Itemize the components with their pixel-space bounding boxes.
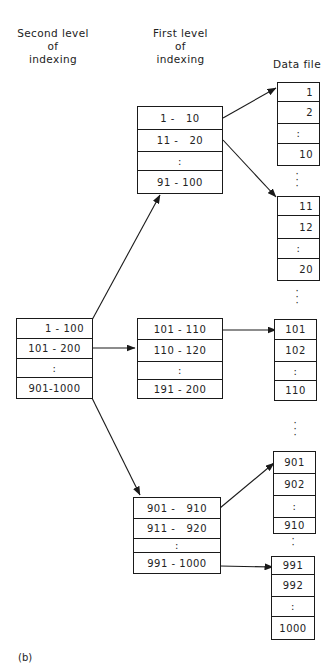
first-level-index-block-3: 901 - 910 911 - 920 : 991 - 1000 [133, 497, 221, 574]
arrow-2nd-to-1st-bottom [92, 398, 140, 495]
data-record-ellipsis: : [274, 496, 315, 518]
data-record: 991 [272, 557, 314, 575]
data-record: 110 [275, 381, 316, 400]
data-record-ellipsis: : [278, 124, 319, 144]
index-entry: 191 - 200 [138, 380, 222, 399]
ellipsis-vertical: ··· [292, 171, 302, 189]
arrow-2nd-to-1st-top [92, 195, 160, 320]
data-record: 1 [278, 83, 319, 102]
index-entry-ellipsis: : [134, 539, 220, 553]
index-entry: 1 - 10 [138, 107, 222, 130]
index-entry: 901 - 910 [134, 498, 220, 519]
data-record-ellipsis: : [275, 362, 316, 381]
index-entry: 911 - 920 [134, 519, 220, 539]
first-level-index-block-2: 101 - 110 110 - 120 : 191 - 200 [137, 318, 223, 399]
data-record: 992 [272, 575, 314, 597]
data-record: 11 [278, 197, 319, 216]
arrow-1st-to-data-11 [223, 140, 276, 197]
index-entry: 91 - 100 [138, 171, 222, 193]
data-record: 910 [274, 518, 315, 533]
data-file-block-1: 1 2 : 10 [277, 82, 320, 166]
ellipsis-vertical: ··· [292, 288, 302, 306]
index-entry: 101 - 200 [17, 339, 92, 359]
second-level-index-block: 1 - 100 101 - 200 : 901-1000 [16, 318, 93, 399]
data-record: 12 [278, 216, 319, 239]
data-record: 901 [274, 452, 315, 474]
index-entry-ellipsis: : [138, 152, 222, 171]
data-file-block-4: 901 902 : 910 [273, 451, 316, 534]
data-record: 902 [274, 474, 315, 496]
data-file-block-3: 101 102 : 110 [274, 319, 317, 401]
ellipsis-vertical: ··· [290, 420, 300, 438]
data-record-ellipsis: : [278, 239, 319, 259]
index-entry: 110 - 120 [138, 340, 222, 362]
arrow-1st-to-data-1 [223, 88, 276, 118]
data-record: 20 [278, 259, 319, 280]
data-record: 102 [275, 340, 316, 362]
arrow-1st-to-data-901 [220, 463, 274, 508]
data-record-ellipsis: : [272, 597, 314, 617]
index-entry: 1 - 100 [17, 319, 92, 339]
index-entry: 991 - 1000 [134, 553, 220, 573]
index-entry-ellipsis: : [138, 362, 222, 380]
index-entry: 101 - 110 [138, 319, 222, 340]
index-entry: 11 - 20 [138, 130, 222, 152]
data-file-block-5: 991 992 : 1000 [271, 556, 315, 640]
data-record: 1000 [272, 617, 314, 639]
data-record: 101 [275, 320, 316, 340]
arrow-1st-to-data-991 [220, 566, 273, 567]
figure-caption: (b) [18, 652, 32, 663]
index-entry: 901-1000 [17, 378, 92, 398]
data-record: 10 [278, 144, 319, 165]
first-level-index-block-1: 1 - 10 11 - 20 : 91 - 100 [137, 106, 223, 194]
data-record: 2 [278, 102, 319, 124]
data-file-block-2: 11 12 : 20 [277, 196, 320, 281]
ellipsis-vertical: ·· [288, 536, 298, 548]
index-entry-ellipsis: : [17, 359, 92, 378]
